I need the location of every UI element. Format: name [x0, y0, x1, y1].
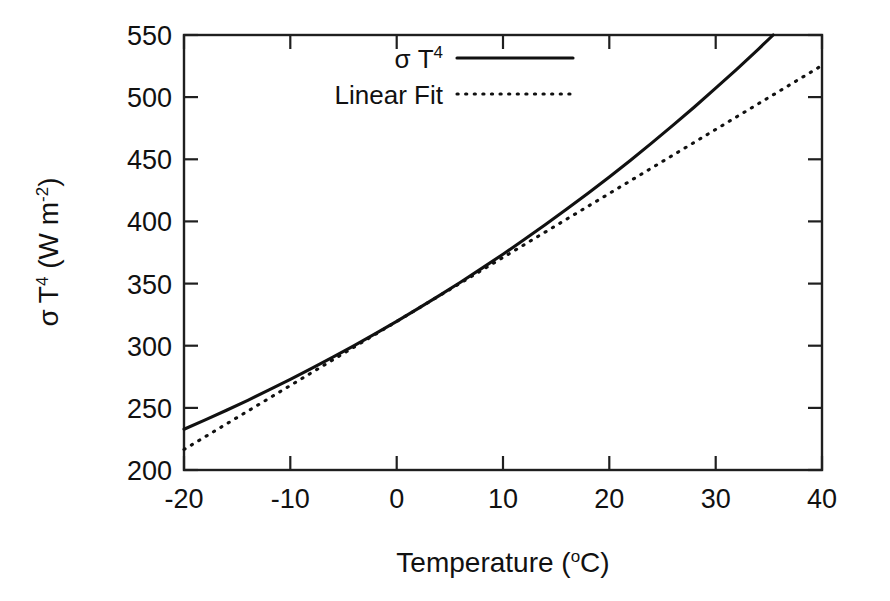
y-tick-label: 400 — [127, 207, 172, 237]
y-tick-label: 500 — [127, 83, 172, 113]
chart-svg: 550 500 450 400 350 300 250 — [0, 0, 890, 601]
x-tick-label: 30 — [701, 484, 731, 514]
y-tick-label: 350 — [127, 270, 172, 300]
chart-figure: 550 500 450 400 350 300 250 — [0, 0, 890, 601]
y-tick-label: 250 — [127, 394, 172, 424]
x-tick-label: 10 — [488, 484, 518, 514]
x-tick-label: 0 — [389, 484, 404, 514]
y-tick-label: 300 — [127, 332, 172, 362]
x-tick-label: -20 — [164, 484, 203, 514]
x-tick-label: 20 — [594, 484, 624, 514]
x-tick-label: -10 — [271, 484, 310, 514]
y-tick-label: 200 — [127, 456, 172, 486]
legend-label-linear-fit: Linear Fit — [335, 80, 444, 110]
x-tick-label: 40 — [807, 484, 837, 514]
y-tick-label: 550 — [127, 21, 172, 51]
y-tick-label: 450 — [127, 145, 172, 175]
